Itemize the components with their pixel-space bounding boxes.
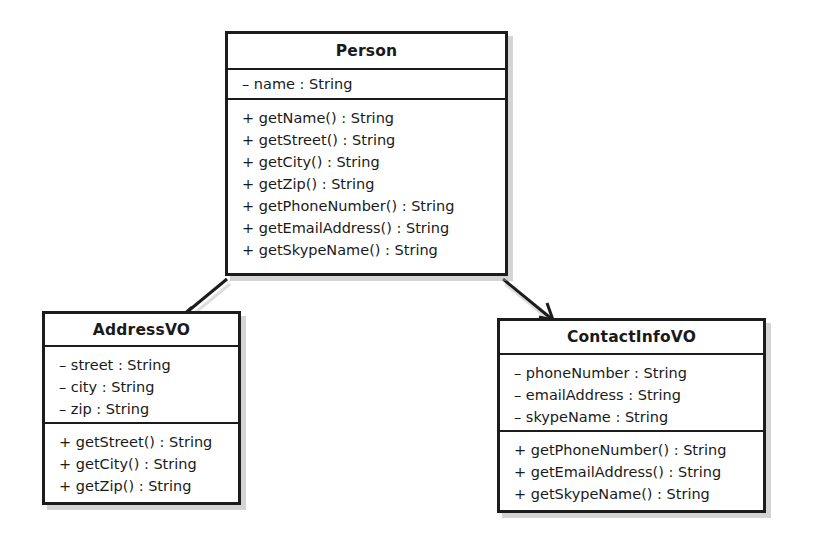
method-row: + getZip() : String [242,173,505,195]
class-name-person: Person [228,34,505,70]
method-row: + getEmailAddress() : String [242,217,505,239]
method-row: + getStreet() : String [242,129,505,151]
method-row: + getZip() : String [59,475,238,497]
method-row: + getPhoneNumber() : String [514,439,763,461]
method-row: + getSkypeName() : String [514,483,763,505]
class-methods-person: + getName() : String + getStreet() : Str… [228,100,505,269]
method-row: + getCity() : String [59,453,238,475]
method-row: + getSkypeName() : String [242,239,505,261]
class-name-contactinfovo: ContactInfoVO [500,321,763,355]
attribute-row: – zip : String [59,398,238,420]
method-row: + getStreet() : String [59,431,238,453]
class-attributes-person: – name : String [228,70,505,100]
class-attributes-contactinfovo: – phoneNumber : String – emailAddress : … [500,355,763,432]
attribute-row: – phoneNumber : String [514,362,763,384]
method-row: + getCity() : String [242,151,505,173]
class-methods-contactinfovo: + getPhoneNumber() : String + getEmailAd… [500,432,763,513]
uml-class-person[interactable]: Person – name : String + getName() : Str… [225,31,508,276]
attribute-row: – street : String [59,354,238,376]
attribute-row: – city : String [59,376,238,398]
connector-person-to-contactinfovo [503,279,553,320]
method-row: + getEmailAddress() : String [514,461,763,483]
class-name-addressvo: AddressVO [45,314,238,347]
uml-class-diagram: Person – name : String + getName() : Str… [0,0,817,548]
method-row: + getName() : String [242,107,505,129]
attribute-row: – skypeName : String [514,406,763,428]
uml-class-addressvo[interactable]: AddressVO – street : String – city : Str… [42,311,241,505]
method-row: + getPhoneNumber() : String [242,195,505,217]
attribute-row: – emailAddress : String [514,384,763,406]
attribute-row: – name : String [242,73,505,95]
uml-class-contactinfovo[interactable]: ContactInfoVO – phoneNumber : String – e… [497,318,766,513]
class-attributes-addressvo: – street : String – city : String – zip … [45,347,238,424]
class-methods-addressvo: + getStreet() : String + getCity() : Str… [45,424,238,505]
